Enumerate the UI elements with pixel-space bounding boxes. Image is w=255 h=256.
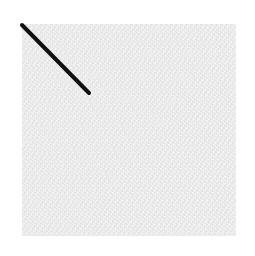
figure-canvas bbox=[0, 0, 255, 256]
line-overlay bbox=[0, 0, 255, 256]
diagonal-line bbox=[22, 25, 89, 93]
